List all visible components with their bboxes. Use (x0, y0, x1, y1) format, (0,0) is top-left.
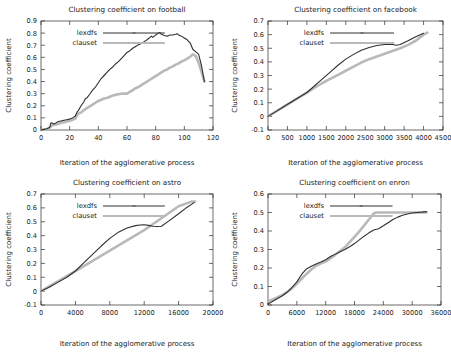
y-axis-label: Clustering coefficient (231, 38, 239, 113)
x-tick-label: 40 (94, 134, 102, 142)
y-tick-label: 0.1 (27, 114, 38, 122)
plot-frame (41, 21, 213, 130)
plot-frame (41, 194, 213, 305)
y-tick-label: 0.3 (27, 90, 38, 98)
y-tick-label: 0.4 (254, 58, 265, 66)
y-tick-label: 0.7 (254, 17, 265, 25)
series-line-clauset (268, 33, 427, 117)
legend-label-lexdfs: lexdfs (304, 29, 325, 37)
y-tick-label: 0.6 (27, 54, 38, 62)
y-tick-label: 0.4 (27, 78, 38, 86)
legend-label-clauset: clauset (73, 39, 98, 47)
x-tick-label: 1000 (298, 134, 315, 142)
x-tick-label: 12000 (134, 309, 155, 317)
x-tick-label: 6000 (288, 309, 305, 317)
x-tick-label: 4000 (67, 309, 84, 317)
y-tick-label: -0.1 (251, 126, 264, 134)
y-tick-label: 0.8 (27, 30, 38, 38)
y-tick-label: 0.1 (27, 274, 38, 282)
x-axis-label: Iteration of the agglomerative process (60, 340, 195, 348)
x-axis-label: Iteration of the agglomerative process (287, 340, 422, 348)
y-tick-label: 0.7 (27, 190, 38, 198)
legend-label-clauset: clauset (73, 212, 98, 220)
y-tick-label: 0 (260, 301, 264, 309)
series-line-clauset (41, 54, 204, 130)
y-axis-label: Clustering coefficient (5, 38, 13, 113)
legend-label-lexdfs: lexdfs (77, 202, 98, 210)
legend-label-clauset: clauset (300, 212, 325, 220)
x-axis-label: Iteration of the agglomerative process (60, 159, 195, 167)
x-tick-label: 12000 (315, 309, 336, 317)
y-axis-label: Clustering coefficient (5, 212, 13, 287)
y-tick-label: 0.1 (254, 283, 265, 291)
x-tick-label: 4000 (415, 134, 432, 142)
x-tick-label: 18000 (344, 309, 365, 317)
y-tick-label: 0.6 (27, 204, 38, 212)
clustering-coefficient-figure: Clustering coefficient on football00.10.… (0, 0, 451, 353)
x-tick-label: 20000 (203, 309, 224, 317)
y-tick-label: 0.4 (254, 227, 265, 235)
x-tick-label: 1500 (318, 134, 335, 142)
plot-football: Clustering coefficient on football00.10.… (0, 0, 226, 172)
legend-label-clauset: clauset (300, 39, 325, 47)
y-tick-label: 0.3 (27, 246, 38, 254)
plot-title: Clustering coefficient on enron (299, 178, 410, 187)
y-tick-label: 0.3 (254, 72, 265, 80)
x-tick-label: 2000 (337, 134, 354, 142)
x-tick-label: 3000 (376, 134, 393, 142)
series-line-lexdfs (268, 33, 424, 116)
x-tick-label: 120 (207, 134, 220, 142)
x-tick-label: 3500 (396, 134, 413, 142)
y-axis-label: Clustering coefficient (231, 212, 239, 287)
x-axis-label: Iteration of the agglomerative process (288, 159, 423, 167)
plot-frame (268, 21, 443, 130)
legend-label-lexdfs: lexdfs (304, 202, 325, 210)
plot-astro: Clustering coefficient on astro-0.100.10… (0, 172, 226, 353)
plot-title: Clustering coefficient on facebook (294, 5, 418, 14)
x-tick-label: 2500 (357, 134, 374, 142)
x-tick-label: 0 (266, 309, 270, 317)
y-tick-label: 0.2 (27, 102, 38, 110)
panel-facebook: Clustering coefficient on facebook-0.100… (226, 0, 451, 172)
x-tick-label: 0 (39, 309, 43, 317)
x-tick-label: 16000 (168, 309, 189, 317)
y-tick-label: 0 (33, 126, 37, 134)
plot-title: Clustering coefficient on football (68, 5, 185, 14)
y-tick-label: 0.2 (27, 260, 38, 268)
y-tick-label: 0.3 (254, 246, 265, 254)
y-tick-label: 0.6 (254, 31, 265, 39)
x-tick-label: 0 (39, 134, 43, 142)
x-tick-label: 8000 (101, 309, 118, 317)
y-tick-label: 0.5 (27, 218, 38, 226)
panel-enron: Clustering coefficient on enron00.10.20.… (226, 172, 451, 353)
y-tick-label: 0.2 (254, 264, 265, 272)
y-tick-label: 0.7 (27, 42, 38, 50)
series-line-lexdfs (268, 212, 427, 304)
y-tick-label: 0.5 (27, 66, 38, 74)
plot-frame (268, 194, 441, 305)
x-tick-label: 500 (281, 134, 294, 142)
x-tick-label: 36000 (431, 309, 451, 317)
legend-label-lexdfs: lexdfs (77, 29, 98, 37)
panel-football: Clustering coefficient on football00.10.… (0, 0, 226, 172)
y-tick-label: 0.5 (254, 209, 265, 217)
y-tick-label: 0.1 (254, 99, 265, 107)
plot-enron: Clustering coefficient on enron00.10.20.… (226, 172, 451, 353)
series-line-lexdfs (41, 33, 204, 130)
x-tick-label: 30000 (402, 309, 423, 317)
x-tick-label: 24000 (373, 309, 394, 317)
x-tick-label: 0 (266, 134, 270, 142)
x-tick-label: 4500 (435, 134, 451, 142)
y-tick-label: 0.6 (254, 190, 265, 198)
y-tick-label: 0.5 (254, 45, 265, 53)
y-tick-label: 0 (260, 113, 264, 121)
x-tick-label: 100 (178, 134, 191, 142)
x-tick-label: 20 (65, 134, 73, 142)
plot-facebook: Clustering coefficient on facebook-0.100… (226, 0, 451, 172)
y-tick-label: 0.4 (27, 232, 38, 240)
plot-title: Clustering coefficient on astro (73, 178, 181, 187)
y-tick-label: 0 (33, 288, 37, 296)
x-tick-label: 80 (151, 134, 159, 142)
y-tick-label: 0.9 (27, 17, 38, 25)
y-tick-label: 0.2 (254, 86, 265, 94)
